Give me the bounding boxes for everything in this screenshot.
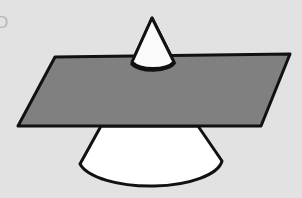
figure-canvas: D [0,0,302,198]
cone-lower-body [80,126,222,186]
geometry-illustration [0,0,302,198]
cone-upper-visible-part [132,18,174,69]
